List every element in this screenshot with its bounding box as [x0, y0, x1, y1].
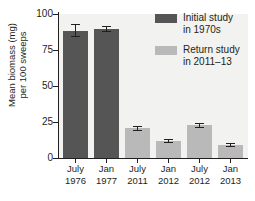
x-label-month: Jan — [215, 163, 246, 175]
x-label-month: Jan — [91, 163, 122, 175]
x-label-month: July — [122, 163, 153, 175]
chart-figure: Mean biomass (mg) per 100 sweeps 100 75 … — [0, 0, 255, 201]
legend-label-line-1: Initial study — [183, 12, 255, 24]
bar-july-2012[interactable] — [187, 125, 212, 158]
x-label-year: 2013 — [215, 175, 246, 187]
bar-july-1976[interactable] — [63, 31, 88, 158]
bar-july-2011[interactable] — [125, 128, 150, 158]
x-axis-labels: July 1976 Jan 1977 July 2011 Jan 2012 Ju… — [0, 163, 255, 193]
x-label-july-2012: July 2012 — [184, 163, 215, 187]
x-label-jan-2013: Jan 2013 — [215, 163, 246, 187]
x-label-year: 2012 — [153, 175, 184, 187]
legend-label-line-2: in 2011–13 — [183, 56, 255, 68]
x-label-month: July — [60, 163, 91, 175]
x-label-year: 1976 — [60, 175, 91, 187]
bar-jan-2012[interactable] — [156, 141, 181, 158]
error-bar-july-1976 — [63, 24, 88, 37]
legend-label-initial-study: Initial study in 1970s — [183, 12, 255, 35]
x-label-july-1976: July 1976 — [60, 163, 91, 187]
x-label-july-2011: July 2011 — [122, 163, 153, 187]
bar-jan-1977[interactable] — [94, 29, 119, 158]
x-label-month: July — [184, 163, 215, 175]
legend-item-initial-study[interactable]: Initial study in 1970s — [155, 12, 255, 35]
error-bar-july-2011 — [125, 126, 150, 131]
legend-item-return-study[interactable]: Return study in 2011–13 — [155, 44, 255, 67]
x-label-jan-2012: Jan 2012 — [153, 163, 184, 187]
error-bar-jan-1977 — [94, 26, 119, 32]
x-label-year: 2011 — [122, 175, 153, 187]
x-label-year: 1977 — [91, 175, 122, 187]
legend-label-line-1: Return study — [183, 44, 255, 56]
legend-label-return-study: Return study in 2011–13 — [183, 44, 255, 67]
legend-swatch-return-study — [155, 46, 177, 55]
error-bar-jan-2012 — [156, 139, 181, 143]
error-bar-july-2012 — [187, 123, 212, 128]
x-label-year: 2012 — [184, 175, 215, 187]
x-label-month: Jan — [153, 163, 184, 175]
chart-legend: Initial study in 1970s Return study in 2… — [155, 12, 255, 74]
x-label-jan-1977: Jan 1977 — [91, 163, 122, 187]
legend-swatch-initial-study — [155, 14, 177, 23]
error-bar-jan-2013 — [218, 143, 243, 147]
legend-label-line-2: in 1970s — [183, 24, 255, 36]
